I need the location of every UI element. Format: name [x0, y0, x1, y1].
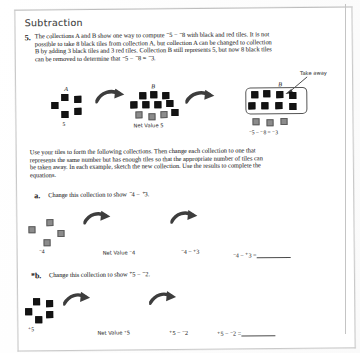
tile-black	[166, 100, 173, 107]
part-a-collection-tiles	[0, 0, 358, 2]
arrow-right-icon-5	[63, 292, 91, 309]
part-a-value-label: ⁻4	[39, 248, 45, 254]
collection-b-tiles	[0, 0, 358, 2]
tile-red	[160, 111, 167, 118]
collection-b-net-value-label: Net Value 5	[134, 122, 164, 128]
tile-black	[248, 102, 255, 109]
tile-red	[46, 219, 53, 226]
part-a-net-value-label: Net Value ⁻4	[103, 249, 136, 255]
tile-red	[135, 111, 142, 118]
instructions-line-4: equations.	[30, 168, 338, 178]
tile-black	[263, 90, 270, 97]
arrow-right-icon-1	[95, 88, 125, 106]
part-a-answer-row: ⁻4 − ⁺3 =	[233, 251, 291, 259]
tile-black	[261, 102, 268, 109]
tile-black	[162, 92, 169, 99]
tile-black	[275, 102, 282, 109]
collection-a-label: A	[64, 85, 68, 92]
part-a-marker: a.	[34, 191, 40, 200]
tile-red	[267, 119, 274, 126]
tile-red	[44, 239, 51, 246]
part-b-net-value-label: Net Value ⁺5	[97, 329, 130, 335]
collection-b-takeaway-tiles	[0, 0, 358, 2]
part-a-middle-expression: ⁻4 − ⁺3	[181, 248, 200, 255]
tile-red	[148, 113, 155, 120]
tile-black	[74, 108, 81, 115]
tile-black	[25, 308, 32, 315]
part-b-answer-blank[interactable]	[241, 329, 275, 336]
part-b-middle-expression: ⁺5 − ⁻2	[169, 329, 188, 336]
arrow-right-icon-3	[83, 211, 111, 228]
tile-black	[61, 111, 68, 118]
tile-black	[289, 92, 296, 99]
tile-black	[150, 91, 157, 98]
takeaway-equation: ⁻5 − ⁻8 = ⁻3	[249, 129, 278, 135]
tile-black	[154, 101, 161, 108]
tile-black	[139, 92, 146, 99]
tile-black	[46, 311, 53, 318]
collection-b-takeaway-label: B	[278, 80, 282, 87]
tile-black	[171, 109, 178, 116]
tile-black	[33, 298, 40, 305]
tile-red	[28, 226, 35, 233]
tile-black	[74, 96, 81, 103]
tile-black	[289, 103, 296, 110]
part-b-collection-tiles	[0, 0, 358, 2]
page-title: Subtraction	[25, 17, 83, 29]
part-b-prompt: Change this collection to show ⁺5 − ⁻2.	[49, 269, 279, 279]
part-b-answer-row: ⁺5 − ⁻2 =	[217, 329, 275, 337]
tile-red	[280, 118, 287, 125]
tile-black	[46, 300, 53, 307]
tile-black	[35, 316, 42, 323]
tile-red	[57, 230, 64, 237]
collection-a-value-label: 5	[63, 121, 66, 127]
part-a-prompt: Change this collection to show ⁻4 − ⁺3.	[48, 189, 278, 199]
tile-black	[61, 94, 68, 101]
tile-black	[51, 102, 58, 109]
tile-black	[142, 101, 149, 108]
part-b-marker: *b.	[31, 271, 42, 280]
collection-b-label: B	[151, 82, 155, 89]
scanned-worksheet-page: Subtraction 5. The collections A and B s…	[0, 0, 360, 353]
tile-black	[276, 91, 283, 98]
collection-a-tiles	[0, 0, 358, 2]
part-a-answer-expression: ⁻4 − ⁺3 =	[233, 251, 257, 258]
problem-number-5: 5.	[25, 33, 31, 42]
part-a-answer-blank[interactable]	[256, 251, 290, 258]
tile-black	[130, 101, 137, 108]
part-b-answer-expression: ⁺5 − ⁻2 =	[217, 329, 241, 336]
part-b-value-label: ⁺5	[28, 326, 34, 332]
page-content: Subtraction 5. The collections A and B s…	[0, 0, 360, 353]
problem-5-line-4: can be removed to determine that ⁻5 − ⁻8…	[35, 52, 337, 62]
arrow-right-icon-6	[149, 291, 177, 308]
tile-black	[251, 91, 258, 98]
tile-red	[252, 118, 259, 125]
arrow-right-icon-4	[170, 210, 198, 227]
arrow-right-icon-2	[185, 90, 215, 108]
